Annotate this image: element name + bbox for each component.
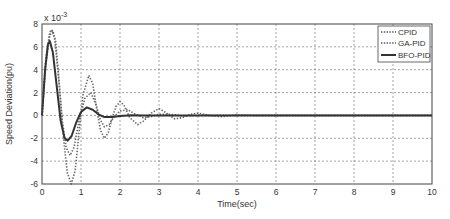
grid-lines xyxy=(42,24,432,184)
x-tick-label: 3 xyxy=(157,187,162,197)
speed-deviation-chart: -6-4-202468 012345678910 x 10-3 Time(sec… xyxy=(0,0,450,219)
legend-label-bfo-pid: BFO-PID xyxy=(398,51,431,60)
legend: CPID GA-PID BFO-PID xyxy=(378,26,431,62)
x-tick-label: 4 xyxy=(196,187,201,197)
y-tick-label: -2 xyxy=(30,133,38,143)
legend-label-ga-pid: GA-PID xyxy=(398,39,426,48)
legend-label-cpid: CPID xyxy=(398,28,417,37)
y-tick-label: 4 xyxy=(33,65,38,75)
y-tick-label: -4 xyxy=(30,156,38,166)
x-tick-labels: 012345678910 xyxy=(40,187,437,197)
x-tick-label: 7 xyxy=(313,187,318,197)
y-multiplier-label: x 10-3 xyxy=(44,11,67,23)
y-tick-label: 0 xyxy=(33,110,38,120)
y-tick-label: 8 xyxy=(33,19,38,29)
y-axis-label: Speed Deviation(pu) xyxy=(4,63,14,145)
y-tick-labels: -6-4-202468 xyxy=(30,19,38,189)
x-tick-label: 8 xyxy=(352,187,357,197)
x-tick-label: 2 xyxy=(118,187,123,197)
y-tick-label: 6 xyxy=(33,42,38,52)
x-axis-label: Time(sec) xyxy=(217,199,257,209)
x-tick-label: 5 xyxy=(235,187,240,197)
x-tick-label: 6 xyxy=(274,187,279,197)
x-tick-label: 0 xyxy=(40,187,45,197)
x-tick-label: 9 xyxy=(391,187,396,197)
y-tick-label: 2 xyxy=(33,88,38,98)
x-tick-label: 10 xyxy=(427,187,437,197)
y-tick-label: -6 xyxy=(30,179,38,189)
x-tick-label: 1 xyxy=(79,187,84,197)
